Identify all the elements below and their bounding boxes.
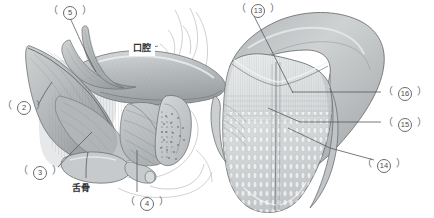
label-3-group[interactable]: （3） xyxy=(18,165,62,180)
label-16-group[interactable]: （16） xyxy=(383,86,427,101)
oral-cavity-label: 口腔 xyxy=(129,40,155,56)
paren-close: ） xyxy=(82,5,92,16)
paren-open: （ xyxy=(383,117,393,128)
paren-open: （ xyxy=(362,158,372,169)
circled-number-5: 5 xyxy=(63,6,77,20)
hyoid-bone-label: 舌骨 xyxy=(72,181,90,194)
circled-number-13: 13 xyxy=(251,4,265,18)
figure-canvas: （5） （2） （3） （4） （13） （16） （15） （14） 口腔 舌… xyxy=(0,0,434,217)
label-4-group[interactable]: （4） xyxy=(125,196,169,211)
paren-close: ） xyxy=(36,100,46,111)
anatomy-illustration xyxy=(0,0,434,217)
label-2-group[interactable]: （2） xyxy=(2,100,46,115)
circled-number-3: 3 xyxy=(33,166,47,180)
paren-open: （ xyxy=(2,100,12,111)
label-15-group[interactable]: （15） xyxy=(383,117,427,132)
paren-open: （ xyxy=(383,86,393,97)
paren-open: （ xyxy=(48,5,58,16)
paren-open: （ xyxy=(18,165,28,176)
paren-close: ） xyxy=(270,3,280,14)
paren-close: ） xyxy=(396,158,406,169)
circled-number-15: 15 xyxy=(398,118,412,132)
paren-close: ） xyxy=(417,117,427,128)
paren-close: ） xyxy=(159,196,169,207)
circled-number-16: 16 xyxy=(398,87,412,101)
label-13-group[interactable]: （13） xyxy=(236,3,280,18)
paren-close: ） xyxy=(417,86,427,97)
epiglottis-larynx xyxy=(155,95,191,165)
circled-number-4: 4 xyxy=(140,197,154,211)
paren-open: （ xyxy=(125,196,135,207)
circled-number-2: 2 xyxy=(17,101,31,115)
circled-number-14: 14 xyxy=(377,159,391,173)
paren-open: （ xyxy=(236,3,246,14)
paren-close: ） xyxy=(52,165,62,176)
right-panel-illustration xyxy=(211,13,384,218)
label-5-group[interactable]: （5） xyxy=(48,5,92,20)
label-14-group[interactable]: （14） xyxy=(362,158,406,173)
